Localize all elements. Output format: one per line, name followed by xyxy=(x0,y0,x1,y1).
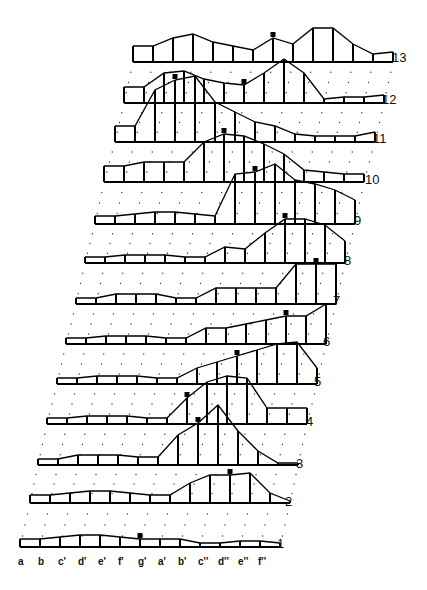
grid-dot xyxy=(313,313,314,314)
grid-dot xyxy=(180,283,181,284)
grid-dot xyxy=(321,192,322,193)
grid-dot xyxy=(189,243,190,244)
grid-dot xyxy=(102,273,103,274)
grid-dot xyxy=(218,293,219,294)
row-label: 1 xyxy=(277,536,284,551)
grid-dot xyxy=(208,82,209,83)
grid-dot xyxy=(122,535,123,536)
grid-dot xyxy=(121,192,122,193)
grid-dot xyxy=(93,483,94,484)
grid-dot xyxy=(282,273,283,274)
grid-dot xyxy=(221,192,222,193)
note-label: d'' xyxy=(218,556,229,567)
grid-dot xyxy=(152,233,153,234)
grid-dot xyxy=(263,353,264,354)
grid-dot xyxy=(169,243,170,244)
grid-dot xyxy=(35,474,36,475)
grid-dot xyxy=(207,253,208,254)
grid-dot xyxy=(242,444,243,445)
grid-dot xyxy=(301,112,302,113)
grid-dot xyxy=(212,233,213,234)
grid-dot xyxy=(232,151,233,152)
grid-dot xyxy=(258,293,259,294)
grid-dot xyxy=(92,233,93,234)
note-label: c'' xyxy=(198,556,208,567)
grid-dot xyxy=(174,393,175,394)
grid-dot xyxy=(295,474,296,475)
grid-dot xyxy=(226,92,227,93)
grid-dot xyxy=(117,132,118,133)
grid-dot xyxy=(172,233,173,234)
grid-dot xyxy=(284,524,285,525)
row-label: 7 xyxy=(333,293,340,308)
grid-dot xyxy=(182,535,183,536)
profile-row-7 xyxy=(76,258,336,304)
grid-dot xyxy=(42,444,43,445)
grid-dot xyxy=(122,273,123,274)
grid-dot xyxy=(269,413,270,414)
grid-dot xyxy=(210,323,211,324)
grid-dot xyxy=(234,393,235,394)
grid-dot xyxy=(242,273,243,274)
grid-dot xyxy=(252,233,253,234)
grid-dot xyxy=(142,273,143,274)
grid-dot xyxy=(269,243,270,244)
grid-dot xyxy=(286,92,287,93)
grid-dot xyxy=(93,313,94,314)
grid-dot xyxy=(111,403,112,404)
grid-dot xyxy=(149,413,150,414)
row-label: 8 xyxy=(344,253,351,268)
grid-dot xyxy=(99,202,100,203)
grid-dot xyxy=(228,333,229,334)
grid-dot xyxy=(366,92,367,93)
grid-dot xyxy=(359,122,360,123)
grid-dot xyxy=(329,161,330,162)
grid-dot xyxy=(133,313,134,314)
grid-dot xyxy=(339,122,340,123)
grid-dot xyxy=(113,313,114,314)
grid-dot xyxy=(187,513,188,514)
grid-dot xyxy=(381,112,382,113)
grid-dot xyxy=(63,353,64,354)
grid-dot xyxy=(157,132,158,133)
grid-dot xyxy=(268,333,269,334)
grid-dot xyxy=(153,313,154,314)
note-label: f' xyxy=(118,556,124,567)
grid-dot xyxy=(131,403,132,404)
grid-dot xyxy=(199,122,200,123)
profile-row-1 xyxy=(20,533,280,547)
grid-dot xyxy=(129,161,130,162)
grid-dot xyxy=(199,202,200,203)
grid-dot xyxy=(183,353,184,354)
grid-dot xyxy=(279,122,280,123)
grid-dot xyxy=(206,171,207,172)
grid-dot xyxy=(90,323,91,324)
grid-dot xyxy=(51,493,52,494)
grid-dot xyxy=(289,243,290,244)
grid-dot xyxy=(211,493,212,494)
grid-dot xyxy=(329,243,330,244)
grid-dot xyxy=(271,403,272,404)
grid-dot xyxy=(163,353,164,354)
grid-dot xyxy=(177,213,178,214)
grid-dot xyxy=(301,192,302,193)
grid-dot xyxy=(289,413,290,414)
grid-dot xyxy=(288,333,289,334)
grid-dot xyxy=(244,524,245,525)
grid-dot xyxy=(247,513,248,514)
grid-dot xyxy=(127,253,128,254)
grid-dot xyxy=(280,454,281,455)
note-label: b xyxy=(38,556,44,567)
row-label: 11 xyxy=(373,131,387,146)
grid-dot xyxy=(42,535,43,536)
grid-dot xyxy=(181,192,182,193)
grid-dot xyxy=(359,202,360,203)
grid-dot xyxy=(128,333,129,334)
grid-dot xyxy=(91,493,92,494)
grid-dot xyxy=(291,403,292,404)
grid-dot xyxy=(132,233,133,234)
grid-dot xyxy=(310,323,311,324)
grid-dot xyxy=(68,333,69,334)
grid-dot xyxy=(229,161,230,162)
grid-dot xyxy=(67,513,68,514)
